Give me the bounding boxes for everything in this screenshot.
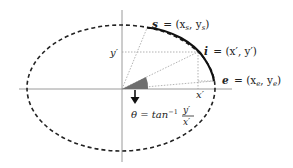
- intermediate-point-label: i = (x′, y′): [204, 45, 257, 57]
- theta-numerator: y′: [182, 105, 190, 115]
- theta-angle-wedge: [122, 77, 148, 89]
- end-point-label: e = (xe, ye): [222, 74, 281, 88]
- theta-denominator: x′: [183, 117, 190, 127]
- down-arrow-icon: [131, 97, 140, 104]
- ellipse-arc-diagram: s = (xs, ys) i = (x′, y′) e = (xe, ye) y…: [0, 0, 293, 168]
- dashed-ellipse: [27, 25, 215, 151]
- theta-formula: θ = tan−1: [131, 108, 178, 120]
- y-prime-label: y′: [109, 47, 119, 58]
- start-point-label: s = (xs, ys): [152, 18, 209, 32]
- x-prime-label: x′: [196, 89, 205, 100]
